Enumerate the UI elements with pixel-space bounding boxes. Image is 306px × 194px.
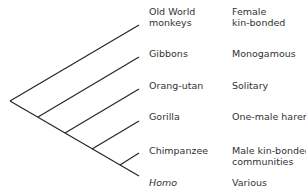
branch-old-world-monkeys [10,25,139,101]
taxon-gibbons: Gibbons [149,48,188,59]
social-chimpanzee: Male kin-bonded communities [232,145,306,167]
taxon-chimpanzee: Chimpanzee [149,145,208,156]
taxon-gorilla: Gorilla [149,111,180,122]
taxon-orang-utan: Orang-utan [149,80,203,91]
taxon-homo: Homo [149,177,177,188]
branch-chimpanzee [120,153,139,165]
branch-gibbons [38,57,139,117]
branch-trunk [10,101,139,176]
social-gibbons: Monogamous [232,48,296,59]
branch-orang-utan [65,89,139,133]
social-old-world-monkeys: Female kin-bonded [232,6,285,28]
social-orang-utan: Solitary [232,80,268,91]
social-homo: Various [232,177,267,188]
taxon-old-world-monkeys: Old World monkeys [149,6,195,28]
social-gorilla: One-male harem [232,111,306,122]
branch-gorilla [92,121,139,149]
